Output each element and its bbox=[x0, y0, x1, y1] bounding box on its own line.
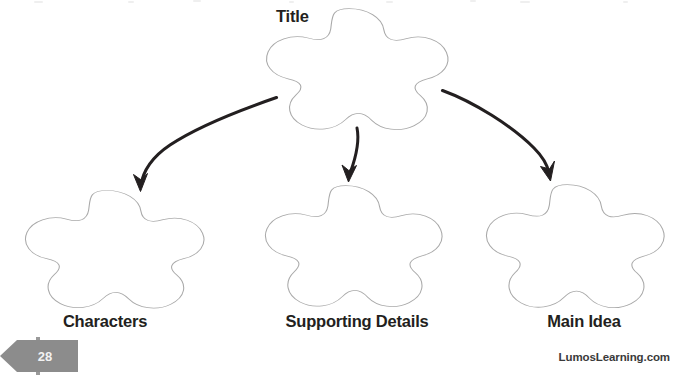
arrow-title-to-supporting-details bbox=[342, 128, 358, 182]
arrow-title-to-main-idea bbox=[443, 91, 555, 182]
label-supporting-details: Supporting Details bbox=[285, 313, 428, 330]
worksheet-page: Title Characters Supporting Details Main… bbox=[0, 0, 680, 375]
label-title: Title bbox=[276, 8, 309, 25]
arrow-title-to-characters bbox=[134, 98, 277, 192]
footer-brand-lumoslearning: LumosLearning.com bbox=[559, 351, 670, 363]
shape-characters[interactable] bbox=[26, 190, 204, 308]
shape-main-idea[interactable] bbox=[486, 185, 664, 308]
shape-title[interactable] bbox=[267, 9, 448, 130]
label-characters: Characters bbox=[63, 313, 147, 330]
label-main-idea: Main Idea bbox=[547, 313, 620, 330]
page-number-badge: 28 bbox=[0, 337, 86, 375]
shape-supporting-details[interactable] bbox=[265, 186, 442, 307]
banner-arrow-shape bbox=[0, 340, 78, 372]
